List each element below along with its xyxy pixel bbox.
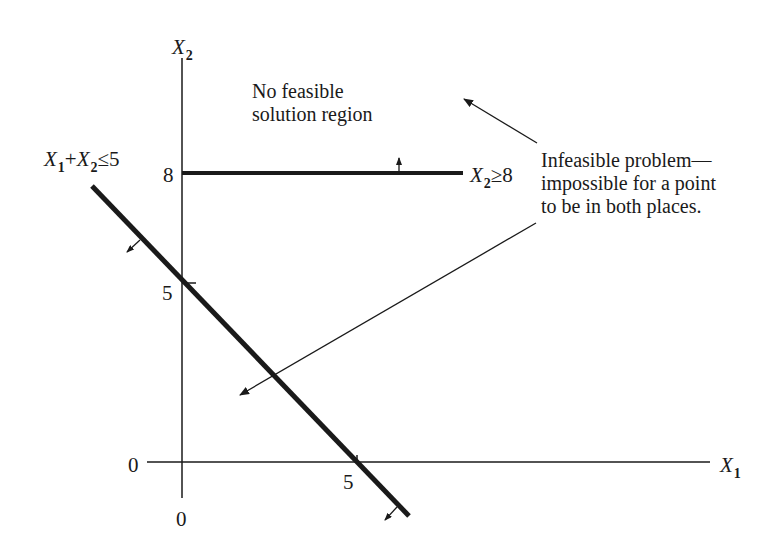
c1-var-b: X — [77, 147, 90, 171]
infeasible-note: Infeasible problem— impossible for a poi… — [541, 149, 716, 218]
x2-axis-label-sub: 2 — [186, 48, 193, 63]
c1-rel: ≤5 — [98, 147, 120, 171]
tick-label-x0: 0 — [176, 508, 187, 530]
constraint-label-x1-plus-x2-le-5: X1+X2≤5 — [44, 148, 120, 173]
c2-var-a: X — [470, 163, 483, 187]
tick-label-x5: 5 — [343, 471, 354, 493]
callout-arrow-lower — [240, 223, 536, 395]
x1-axis-label-main: X — [720, 453, 733, 477]
no-feasible-line-2: solution region — [252, 103, 373, 126]
x1-axis-label: X1 — [720, 454, 741, 479]
constraint-label-x2-ge-8: X2≥8 — [470, 164, 513, 189]
c1-op: + — [65, 147, 77, 171]
infeasible-note-line-3: to be in both places. — [541, 195, 716, 218]
direction-arrow-down-left-2 — [385, 507, 397, 520]
c2-var-a-sub: 2 — [484, 176, 491, 191]
x2-axis-label: X2 — [172, 36, 193, 61]
diagram-canvas — [0, 0, 779, 556]
x1-axis-label-sub: 1 — [734, 466, 741, 481]
infeasible-note-line-1: Infeasible problem— — [541, 149, 716, 172]
no-feasible-line-1: No feasible — [252, 80, 373, 103]
infeasible-note-line-2: impossible for a point — [541, 172, 716, 195]
c1-var-a: X — [44, 147, 57, 171]
c1-var-a-sub: 1 — [58, 160, 65, 175]
no-feasible-region-label: No feasible solution region — [252, 80, 373, 126]
c1-var-b-sub: 2 — [91, 160, 98, 175]
callout-arrow-upper — [464, 99, 537, 143]
c2-rel: ≥8 — [491, 163, 513, 187]
tick-label-y5: 5 — [162, 282, 173, 304]
tick-label-y0: 0 — [128, 454, 139, 476]
tick-label-y8: 8 — [163, 164, 174, 186]
constraint-x1-plus-x2-le-5-line — [92, 186, 409, 516]
direction-arrow-down-left-1 — [127, 240, 140, 252]
x2-axis-label-main: X — [172, 35, 185, 59]
